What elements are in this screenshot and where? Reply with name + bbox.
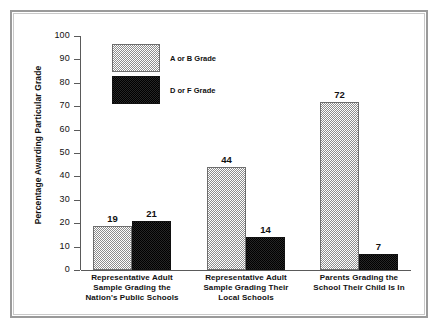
y-axis-tick [74, 223, 80, 224]
y-axis-title: Percentage Awarding Particular Grade [33, 30, 43, 260]
y-axis-tick-label: 90 [46, 53, 70, 63]
legend-label-d-or-f: D or F Grade [170, 86, 215, 95]
bar-value-label: 14 [246, 224, 285, 235]
y-axis-tick [74, 106, 80, 107]
y-axis-tick-label: 40 [46, 170, 70, 180]
bar-value-label: 19 [93, 213, 132, 224]
y-axis-tick-label: 80 [46, 77, 70, 87]
x-axis-line [81, 270, 411, 271]
bar[interactable] [93, 226, 132, 270]
bar-value-label: 7 [359, 241, 398, 252]
legend-label-a-or-b: A or B Grade [170, 54, 216, 63]
chart-screenshot: 1009080706050403020100 Percentage Awardi… [0, 0, 439, 328]
y-axis-tick [74, 83, 80, 84]
bar[interactable] [132, 221, 171, 270]
bar[interactable] [359, 254, 398, 270]
y-axis-tick [74, 153, 80, 154]
y-axis-tick-label: 50 [46, 147, 70, 157]
legend-swatch-d-or-f-icon [112, 76, 160, 104]
bar[interactable] [207, 167, 246, 270]
x-axis-category-label: Representative Adult Sample Grading Thei… [186, 273, 306, 303]
x-axis-category-label: Parents Grading the School Their Child I… [299, 273, 419, 293]
bar[interactable] [320, 102, 359, 270]
y-axis-tick [74, 176, 80, 177]
y-axis-tick-label: 60 [46, 124, 70, 134]
y-axis-tick [74, 270, 80, 271]
x-axis-category-label: Representative Adult Sample Grading the … [72, 273, 192, 303]
y-axis-tick [74, 36, 80, 37]
bar-value-label: 21 [132, 208, 171, 219]
legend-swatch-a-or-b-icon [112, 44, 160, 72]
y-axis-tick-label: 30 [46, 194, 70, 204]
y-axis-tick [74, 247, 80, 248]
y-axis-tick-label: 70 [46, 100, 70, 110]
y-axis-tick [74, 200, 80, 201]
y-axis-tick-label: 20 [46, 217, 70, 227]
y-axis-tick-label: 0 [46, 264, 70, 274]
bar[interactable] [246, 237, 285, 270]
bar-value-label: 72 [320, 89, 359, 100]
y-axis-tick [74, 59, 80, 60]
legend-item-a-or-b[interactable]: A or B Grade [112, 44, 252, 72]
y-axis-tick-label: 100 [46, 30, 70, 40]
legend-item-d-or-f[interactable]: D or F Grade [112, 76, 252, 104]
y-axis-tick-label: 10 [46, 241, 70, 251]
bar-value-label: 44 [207, 154, 246, 165]
y-axis-tick [74, 130, 80, 131]
